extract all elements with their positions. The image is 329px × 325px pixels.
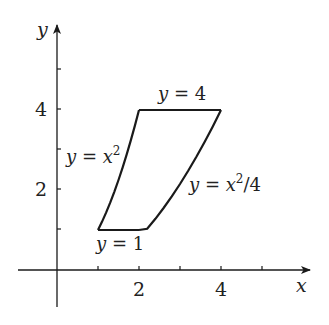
y-tick-label-2: 2 bbox=[35, 178, 47, 200]
label-y-equals-4: y = 4 bbox=[157, 83, 206, 104]
y-axis-label: y bbox=[36, 18, 48, 40]
label-y-equals-x-squared-over-4: y = x2/4 bbox=[188, 172, 261, 195]
label-y-equals-x-squared: y = x2 bbox=[65, 144, 121, 167]
label-y-equals-1: y = 1 bbox=[95, 233, 144, 254]
region-diagram: 2 4 2 4 x y y = 4 y = x2 y = x2/4 y = 1 bbox=[0, 0, 329, 325]
x-axis-label: x bbox=[296, 274, 307, 296]
y-tick-label-4: 4 bbox=[35, 98, 47, 120]
curve-y-equals-x-squared-over-4 bbox=[139, 110, 221, 230]
region-boundary bbox=[98, 110, 221, 230]
curve-y-equals-x-squared bbox=[98, 110, 139, 230]
x-tick-label-2: 2 bbox=[133, 278, 145, 300]
x-tick-label-4: 4 bbox=[215, 278, 227, 300]
